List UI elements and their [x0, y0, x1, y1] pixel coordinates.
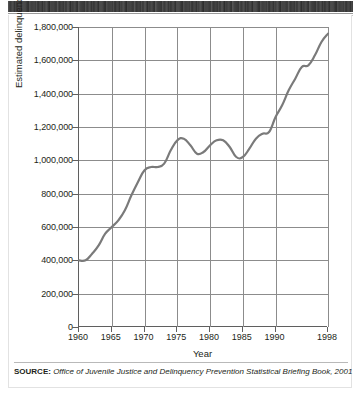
y-axis-tick-label: 400,000: [3, 256, 73, 265]
y-axis-tick-label: 1,600,000: [3, 56, 73, 65]
x-axis-tick-mark: [327, 327, 328, 332]
x-axis-tick-mark: [242, 327, 243, 332]
x-axis-title: Year: [78, 348, 327, 359]
y-axis-tick-label: 1,200,000: [3, 123, 73, 132]
y-axis-tick-label: 800,000: [3, 190, 73, 199]
y-axis-tick-label: 1,400,000: [3, 90, 73, 99]
header-divider-line: [8, 13, 353, 14]
source-prefix: SOURCE:: [14, 367, 51, 376]
gridline-vertical: [328, 27, 329, 327]
x-axis-tick-mark: [176, 327, 177, 332]
x-axis-tick-label: 1990: [255, 333, 295, 342]
plot-area: [78, 27, 327, 327]
y-axis-tick-label: 1,000,000: [3, 156, 73, 165]
source-citation: Office of Juvenile Justice and Delinquen…: [53, 367, 352, 376]
source-note: SOURCE: Office of Juvenile Justice and D…: [14, 367, 352, 377]
y-axis-title: Estimated delinquency cases: [14, 0, 24, 88]
y-axis-tick-label: 1,800,000: [3, 23, 73, 32]
x-axis-tick-mark: [78, 327, 79, 332]
scan-noise-texture: [8, 1, 353, 12]
y-axis-tick-label: 0: [3, 323, 73, 332]
chart-page: Estimated delinquency cases 0200,000400,…: [0, 0, 362, 396]
x-axis-tick-label: 1998: [307, 333, 347, 342]
x-axis-tick-mark: [144, 327, 145, 332]
x-axis-tick-mark: [209, 327, 210, 332]
x-axis-tick-mark: [275, 327, 276, 332]
scan-header-band: [8, 1, 353, 12]
delinquency-cases-line: [79, 27, 328, 327]
x-axis-tick-mark: [111, 327, 112, 332]
y-axis-tick-label: 600,000: [3, 223, 73, 232]
y-axis-tick-label: 200,000: [3, 290, 73, 299]
source-divider: [14, 362, 348, 363]
